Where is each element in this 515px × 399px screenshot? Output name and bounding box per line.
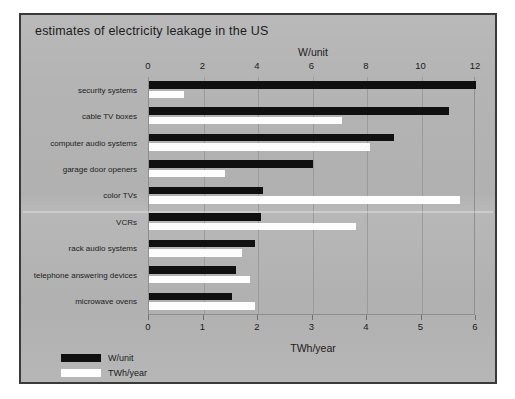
plot-area: [148, 77, 475, 315]
bar-twh-year: [149, 223, 356, 231]
bar-twh-year: [149, 249, 242, 257]
category-label: computer audio systems: [21, 130, 143, 156]
legend-label: TWh/year: [108, 368, 147, 378]
chart-title: estimates of electricity leakage in the …: [35, 24, 269, 38]
bottom-axis-tick-label: 5: [418, 321, 423, 332]
bar-w-unit: [149, 160, 313, 168]
category-label: telephone answering devices: [21, 262, 143, 288]
legend-swatch: [61, 354, 101, 362]
category-label-text: cable TV boxes: [82, 112, 143, 121]
top-axis-tick-label: 4: [254, 60, 259, 71]
bar-w-unit: [149, 266, 236, 274]
category-label: rack audio systems: [21, 236, 143, 262]
bar-row: [149, 183, 474, 209]
top-axis-tick-label: 10: [415, 60, 426, 71]
category-label-text: security systems: [78, 86, 143, 95]
bar-w-unit: [149, 134, 394, 142]
category-label-text: computer audio systems: [50, 139, 143, 148]
chart-legend: W/unitTWh/year: [61, 351, 147, 381]
bar-w-unit: [149, 240, 255, 248]
bar-w-unit: [149, 213, 261, 221]
bottom-axis-tick-label: 3: [309, 321, 314, 332]
bar-row: [149, 156, 474, 182]
bottom-axis-tick-label: 1: [200, 321, 205, 332]
category-label: microwave ovens: [21, 289, 143, 315]
category-label-text: garage door openers: [63, 165, 143, 174]
bar-row: [149, 262, 474, 288]
legend-item: TWh/year: [61, 366, 147, 379]
bar-twh-year: [149, 170, 225, 178]
chart-card: estimates of electricity leakage in the …: [19, 13, 497, 384]
bar-twh-year: [149, 196, 460, 204]
bottom-axis-tick-label: 0: [145, 321, 150, 332]
bar-row: [149, 103, 474, 129]
axis-tickmark: [312, 315, 313, 320]
category-label: cable TV boxes: [21, 103, 143, 129]
bottom-axis-tick-label: 2: [254, 321, 259, 332]
axis-tickmark: [366, 315, 367, 320]
axis-tickmark: [475, 315, 476, 320]
axis-tickmark: [257, 315, 258, 320]
legend-swatch: [61, 369, 101, 377]
category-label-text: VCRs: [116, 218, 143, 227]
category-label: color TVs: [21, 183, 143, 209]
bar-row: [149, 236, 474, 262]
bottom-axis-tick-label: 4: [363, 321, 368, 332]
bar-w-unit: [149, 107, 449, 115]
bar-w-unit: [149, 293, 232, 301]
bar-row: [149, 289, 474, 315]
legend-item: W/unit: [61, 351, 147, 364]
top-axis-tick-label: 8: [363, 60, 368, 71]
category-label-text: telephone answering devices: [34, 271, 143, 280]
bar-twh-year: [149, 302, 255, 310]
category-label-column: security systemscable TV boxescomputer a…: [21, 77, 143, 315]
axis-tickmark: [203, 315, 204, 320]
category-label-text: color TVs: [103, 191, 143, 200]
category-label: garage door openers: [21, 156, 143, 182]
bar-twh-year: [149, 276, 250, 284]
top-axis-tick-label: 6: [309, 60, 314, 71]
top-axis-tick-label: 0: [145, 60, 150, 71]
axis-tickmark: [421, 315, 422, 320]
bar-row: [149, 209, 474, 235]
category-label: security systems: [21, 77, 143, 103]
axis-tickmark: [148, 315, 149, 320]
bar-row: [149, 77, 474, 103]
category-label: VCRs: [21, 209, 143, 235]
bar-twh-year: [149, 91, 184, 99]
category-label-text: rack audio systems: [69, 244, 143, 253]
bottom-axis-tick-label: 6: [472, 321, 477, 332]
bar-twh-year: [149, 117, 342, 125]
bar-w-unit: [149, 187, 263, 195]
top-axis-title: W/unit: [21, 46, 495, 58]
bar-w-unit: [149, 81, 476, 89]
legend-label: W/unit: [108, 353, 134, 363]
bar-row: [149, 130, 474, 156]
top-axis-tick-label: 2: [200, 60, 205, 71]
top-axis-tick-label: 12: [470, 60, 481, 71]
category-label-text: microwave ovens: [75, 297, 143, 306]
bar-twh-year: [149, 143, 370, 151]
